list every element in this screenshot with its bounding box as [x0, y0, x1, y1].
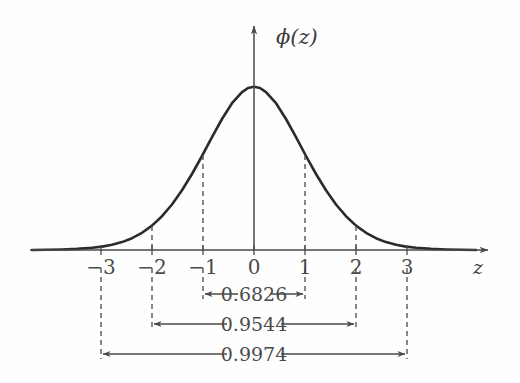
x-tick-labels: −3 −2 −1 0 1 2 3 [86, 255, 413, 279]
interval-label-0.9974: 0.9974 [221, 343, 287, 365]
x-tick-label-1: 1 [299, 255, 312, 279]
x-tick-label--3: −3 [86, 255, 115, 279]
interval-label-0.6826: 0.6826 [221, 283, 287, 305]
normal-distribution-figure: −3 −2 −1 0 1 2 3 ϕ(z) z 0.6826 0.9544 0.… [0, 0, 520, 383]
x-tick-label-0: 0 [248, 255, 261, 279]
interval-bar-0.9544: 0.9544 [154, 313, 354, 335]
x-tick-label-2: 2 [350, 255, 363, 279]
x-tick-label--1: −1 [188, 255, 217, 279]
x-tick-label-3: 3 [401, 255, 414, 279]
x-tick-label--2: −2 [137, 255, 166, 279]
figure-canvas: −3 −2 −1 0 1 2 3 ϕ(z) z 0.6826 0.9544 0.… [0, 0, 520, 383]
y-axis-label: ϕ(z) [276, 25, 318, 49]
interval-label-0.9544: 0.9544 [221, 313, 287, 335]
interval-bar-0.6826: 0.6826 [205, 283, 303, 305]
x-axis-label: z [472, 256, 484, 278]
interval-bar-0.9974: 0.9974 [103, 343, 405, 365]
